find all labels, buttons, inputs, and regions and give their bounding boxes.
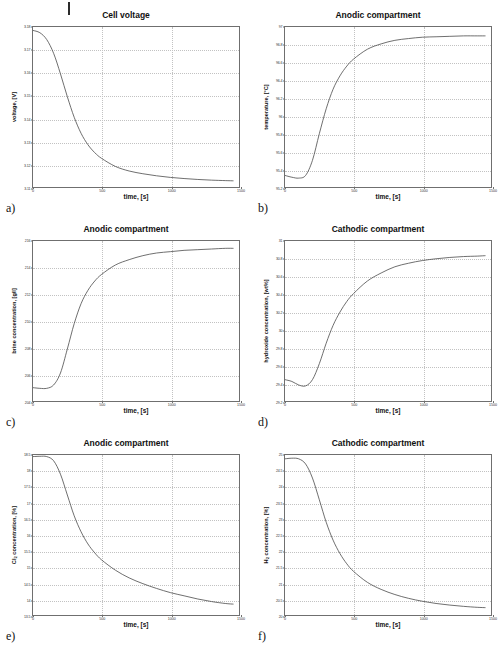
subplot-title: Cathodic compartment — [252, 438, 504, 448]
y-tick-label: 15 — [27, 566, 31, 570]
y-tick-label: 95.4 — [276, 169, 283, 173]
x-tick-label: 1000 — [420, 189, 428, 193]
x-tick-label: 1000 — [420, 617, 428, 621]
y-tick-label: 20 — [279, 615, 283, 619]
x-tick-label: 0 — [32, 403, 34, 407]
y-tick-label: 29.8 — [276, 347, 283, 351]
subplot-title: Cathodic compartment — [252, 224, 504, 234]
plot-area: 3.183.173.163.153.143.133.123.1105001000… — [32, 26, 240, 188]
y-axis-title: voltage, [V] — [11, 26, 17, 188]
data-curve — [33, 27, 239, 187]
x-axis-title: time, [s] — [285, 621, 491, 628]
y-tick-label: 206 — [25, 374, 31, 378]
y-tick-label: 95.6 — [276, 151, 283, 155]
y-tick-label: 29.6 — [276, 365, 283, 369]
y-tick-label: 22 — [279, 550, 283, 554]
y-tick-label: 30.2 — [276, 311, 283, 315]
y-tick-label: 30.6 — [276, 275, 283, 279]
x-tick-label: 0 — [32, 189, 34, 193]
y-tick-label: 25 — [279, 453, 283, 457]
x-tick-label: 1500 — [237, 617, 245, 621]
y-tick-label: 20.5 — [276, 599, 283, 603]
y-tick-label: 210 — [25, 320, 31, 324]
y-tick-label: 3.15 — [24, 94, 31, 98]
y-tick-label: 24.5 — [276, 469, 283, 473]
y-tick-label: 3.14 — [24, 118, 31, 122]
x-tick-label: 1500 — [489, 403, 497, 407]
x-tick-label: 1500 — [237, 403, 245, 407]
data-curve — [285, 455, 491, 615]
y-axis-title: Cl2 concentration, [%] — [11, 454, 17, 616]
y-tick-label: 97 — [279, 25, 283, 29]
y-tick-label: 17 — [27, 502, 31, 506]
x-axis-title: time, [s] — [33, 193, 239, 200]
y-tick-label: 21.5 — [276, 566, 283, 570]
y-tick-label: 208 — [25, 347, 31, 351]
y-tick-label: 23 — [279, 518, 283, 522]
y-tick-label: 3.11 — [24, 187, 30, 191]
y-tick-label: 3.18 — [24, 25, 31, 29]
subplot-f: Cathodic compartmentf)2524.52423.52322.5… — [252, 432, 504, 646]
y-tick-label: 96 — [279, 115, 283, 119]
subplot-letter: b) — [258, 201, 268, 216]
subplot-title: Anodic compartment — [0, 438, 252, 448]
series-line — [285, 458, 486, 607]
y-axis-title: temperature, [°C] — [263, 26, 269, 188]
y-tick-label: 3.12 — [24, 164, 31, 168]
series-line — [33, 456, 234, 604]
x-tick-label: 500 — [351, 617, 357, 621]
x-tick-label: 0 — [32, 617, 34, 621]
x-tick-label: 1000 — [168, 189, 176, 193]
y-tick-label: 18 — [27, 469, 31, 473]
x-tick-label: 1000 — [420, 403, 428, 407]
y-tick-label: 204 — [25, 401, 31, 405]
y-tick-label: 24 — [279, 485, 283, 489]
y-tick-label: 30.4 — [276, 293, 283, 297]
plot-area: 2524.52423.52322.52221.52120.52005001000… — [284, 454, 492, 616]
x-tick-label: 500 — [351, 189, 357, 193]
series-line — [285, 256, 486, 387]
y-tick-label: 15.5 — [24, 550, 31, 554]
series-line — [33, 248, 234, 388]
subplot-title: Anodic compartment — [252, 10, 504, 20]
subplot-a: Cell voltagea)3.183.173.163.153.143.133.… — [0, 4, 252, 218]
y-tick-label: 96.2 — [276, 97, 283, 101]
subplot-d: Cathodic compartmentd)3130.830.630.430.2… — [252, 218, 504, 432]
x-axis-title: time, [s] — [285, 407, 491, 414]
subplot-b: Anodic compartmentb)9796.896.696.496.296… — [252, 4, 504, 218]
y-tick-label: 22.5 — [276, 534, 283, 538]
plot-area: 3130.830.630.430.23029.829.629.429.20500… — [284, 240, 492, 402]
plot-area: 18.51817.51716.51615.51514.51413.5050010… — [32, 454, 240, 616]
x-tick-label: 0 — [284, 403, 286, 407]
y-tick-label: 3.13 — [24, 141, 31, 145]
x-tick-label: 0 — [284, 189, 286, 193]
x-axis-title: time, [s] — [285, 193, 491, 200]
plot-area: 9796.896.696.496.29695.895.695.495.20500… — [284, 26, 492, 188]
y-axis-title: H2 concentration, [%] — [263, 454, 269, 616]
x-tick-label: 500 — [99, 617, 105, 621]
subplot-letter: c) — [6, 415, 15, 430]
x-tick-label: 1500 — [237, 189, 245, 193]
data-curve — [285, 27, 491, 187]
subplot-letter: f) — [258, 629, 266, 644]
y-tick-label: 29.4 — [276, 383, 283, 387]
x-axis-title: time, [s] — [33, 407, 239, 414]
x-tick-label: 1000 — [168, 617, 176, 621]
x-tick-label: 1500 — [489, 189, 497, 193]
x-tick-label: 1500 — [489, 617, 497, 621]
y-axis-title: brine concentration, [g/l] — [11, 240, 17, 402]
y-tick-label: 96.4 — [276, 79, 283, 83]
y-tick-label: 16 — [27, 534, 31, 538]
y-tick-label: 13.5 — [24, 615, 31, 619]
y-tick-label: 212 — [25, 293, 31, 297]
subplot-c: Anodic compartmentc)21621421221020820620… — [0, 218, 252, 432]
y-tick-label: 3.16 — [24, 71, 31, 75]
subplot-title: Cell voltage — [0, 10, 252, 20]
y-tick-label: 29.2 — [276, 401, 283, 405]
data-curve — [33, 455, 239, 615]
subplot-letter: d) — [258, 415, 268, 430]
x-tick-label: 500 — [99, 403, 105, 407]
plot-area: 216214212210208206204050010001500time, [… — [32, 240, 240, 402]
y-tick-label: 31 — [279, 239, 283, 243]
